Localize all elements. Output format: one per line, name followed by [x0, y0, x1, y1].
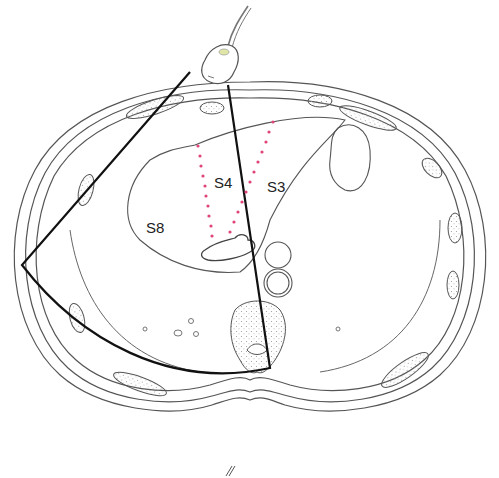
pleura-right [320, 220, 440, 372]
ultrasound-probe [202, 6, 251, 84]
segment-label-s4: S4 [214, 174, 232, 191]
vessels [264, 242, 292, 297]
break-mark [226, 466, 235, 476]
cross-section-svg [0, 0, 499, 478]
portal-structure [202, 235, 255, 261]
vertebra [231, 301, 286, 373]
pleura-left [70, 230, 200, 372]
segment-label-s8: S8 [146, 219, 164, 236]
segment-label-s3: S3 [267, 178, 285, 195]
anatomy-figure: S4 S3 S8 [0, 0, 499, 478]
stomach [330, 125, 371, 191]
